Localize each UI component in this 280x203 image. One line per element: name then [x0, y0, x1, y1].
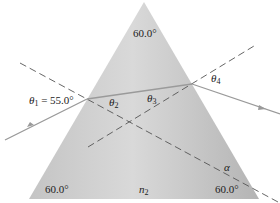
- apex-angle-label: 60.0°: [133, 27, 157, 39]
- alpha-label: α: [224, 161, 230, 173]
- theta4-label: θ4: [211, 72, 220, 86]
- left-angle-label: 60.0°: [45, 183, 69, 195]
- prism-diagram: 60.0° 60.0° 60.0° n2 θ1 = 55.0° θ2 θ3 θ4: [0, 0, 280, 203]
- right-angle-label: 60.0°: [215, 183, 239, 195]
- theta1-label: θ1 = 55.0°: [29, 94, 74, 108]
